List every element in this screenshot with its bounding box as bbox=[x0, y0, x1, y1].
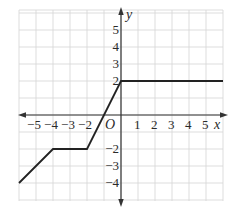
axes bbox=[18, 7, 228, 207]
x-tick-label: 5 bbox=[202, 117, 209, 132]
y-tick-label: 4 bbox=[113, 39, 120, 54]
x-tick-label: −4 bbox=[44, 117, 58, 132]
x-tick-label: 4 bbox=[185, 117, 192, 132]
y-axis-arrow-down-icon bbox=[118, 199, 123, 207]
y-axis-label: y bbox=[124, 7, 133, 22]
x-tick-label: 3 bbox=[168, 117, 175, 132]
y-tick-label: −3 bbox=[105, 158, 119, 173]
x-tick-label: 2 bbox=[151, 117, 158, 132]
y-tick-label: 3 bbox=[113, 56, 120, 71]
y-axis-arrow-up-icon bbox=[118, 7, 123, 15]
x-tick-labels: −5−4−3−212345 bbox=[27, 117, 208, 132]
y-tick-label: −2 bbox=[105, 141, 119, 156]
x-axis-arrow-right-icon bbox=[220, 112, 228, 117]
x-tick-label: −3 bbox=[61, 117, 75, 132]
origin-label: O bbox=[105, 117, 115, 132]
graph-canvas: −5−4−3−212345 5432−2−3−4 x y O bbox=[0, 0, 233, 210]
coordinate-graph: −5−4−3−212345 5432−2−3−4 x y O bbox=[0, 0, 233, 210]
y-tick-label: −4 bbox=[105, 175, 119, 190]
x-tick-label: 1 bbox=[134, 117, 141, 132]
y-tick-label: 5 bbox=[113, 22, 120, 37]
x-tick-label: −2 bbox=[78, 117, 92, 132]
x-axis-label: x bbox=[213, 117, 221, 132]
x-tick-label: −5 bbox=[27, 117, 41, 132]
